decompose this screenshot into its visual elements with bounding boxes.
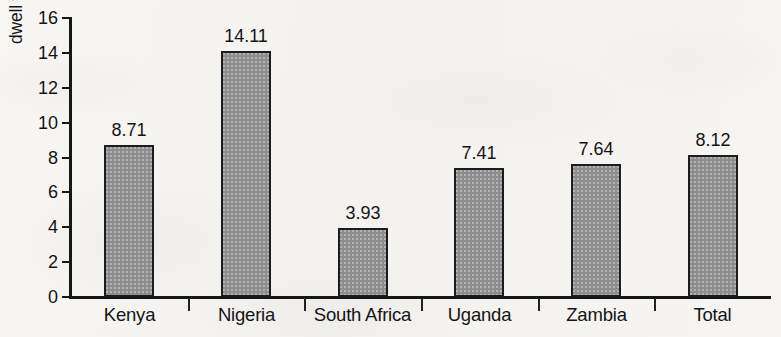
y-axis-tick-label: 10 bbox=[12, 114, 58, 132]
bar[interactable] bbox=[454, 168, 504, 297]
y-axis-tick-label-wrap: 4 bbox=[0, 218, 58, 236]
bar-chart: dwell time (number of days) 024681012141… bbox=[0, 0, 781, 337]
y-axis-tick-label: 4 bbox=[12, 218, 58, 236]
bar-value-label: 7.41 bbox=[429, 144, 529, 162]
y-axis-tick-label-wrap: 8 bbox=[0, 149, 58, 167]
bar[interactable] bbox=[571, 164, 621, 297]
y-axis-tick-mark bbox=[62, 52, 71, 54]
y-axis-tick-label-wrap: 10 bbox=[0, 114, 58, 132]
bar[interactable] bbox=[688, 155, 738, 297]
y-axis-tick-mark bbox=[62, 17, 71, 19]
y-axis-tick-label-wrap: 16 bbox=[0, 9, 58, 27]
y-axis-tick-mark bbox=[62, 87, 71, 89]
y-axis-tick-label-wrap: 12 bbox=[0, 79, 58, 97]
bar-value-label: 14.11 bbox=[196, 27, 296, 45]
bar[interactable] bbox=[104, 145, 154, 297]
y-axis-tick-mark bbox=[62, 122, 71, 124]
y-axis-tick-label: 14 bbox=[12, 44, 58, 62]
x-axis-line bbox=[69, 296, 771, 299]
bar-value-label: 7.64 bbox=[546, 140, 646, 158]
y-axis-tick-label-wrap: 2 bbox=[0, 253, 58, 271]
bar[interactable] bbox=[221, 51, 271, 297]
x-axis-category-label: Total bbox=[654, 305, 771, 325]
x-axis-category-label: Uganda bbox=[421, 305, 538, 325]
y-axis-tick-label-wrap: 6 bbox=[0, 183, 58, 201]
bar-value-label: 3.93 bbox=[313, 204, 413, 222]
y-axis-tick-label: 2 bbox=[12, 253, 58, 271]
y-axis-tick-mark bbox=[62, 191, 71, 193]
x-axis-category-label: Nigeria bbox=[188, 305, 305, 325]
y-axis-tick-label-wrap: 14 bbox=[0, 44, 58, 62]
y-axis-tick-label: 12 bbox=[12, 79, 58, 97]
bar-value-label: 8.12 bbox=[663, 131, 763, 149]
y-axis-tick-mark bbox=[62, 261, 71, 263]
y-axis-tick-label-wrap: 0 bbox=[0, 288, 58, 306]
y-axis-tick-label: 8 bbox=[12, 149, 58, 167]
y-axis-tick-label: 0 bbox=[12, 288, 58, 306]
y-axis-tick-label: 6 bbox=[12, 183, 58, 201]
bar-value-label: 8.71 bbox=[79, 121, 179, 139]
y-axis-tick-label: 16 bbox=[12, 9, 58, 27]
y-axis-tick-mark bbox=[62, 296, 71, 298]
bar[interactable] bbox=[338, 228, 388, 297]
x-axis-category-label: South Africa bbox=[304, 305, 421, 325]
y-axis-tick-mark bbox=[62, 157, 71, 159]
x-axis-category-label: Zambia bbox=[538, 305, 655, 325]
y-axis-tick-mark bbox=[62, 226, 71, 228]
x-axis-category-label: Kenya bbox=[71, 305, 188, 325]
